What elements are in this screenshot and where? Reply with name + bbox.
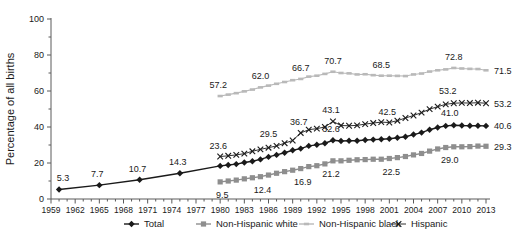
data-point-marker [475, 143, 480, 148]
data-point-marker [250, 88, 255, 91]
data-point-marker [338, 138, 344, 144]
data-point-label: 21.2 [322, 169, 340, 179]
x-axis-tick-label: 1977 [187, 205, 206, 215]
data-point-marker [403, 154, 408, 159]
data-point-label: 22.5 [383, 167, 401, 177]
data-point-marker [459, 144, 464, 149]
x-axis-tick-label: 2001 [380, 205, 399, 215]
x-axis-tick-label: 1986 [259, 205, 278, 215]
data-point-marker [434, 124, 440, 130]
chart-figure: 020406080100 195919621965196819711974197… [0, 0, 514, 237]
data-point-marker [273, 152, 279, 158]
x-axis-tick-label: 2007 [428, 205, 447, 215]
data-point-marker [395, 75, 400, 78]
data-point-marker [298, 166, 303, 171]
data-point-label: 62.0 [252, 71, 270, 81]
legend-item-total[interactable]: Total [124, 218, 164, 229]
x-axis-tick-label: 1992 [307, 205, 326, 215]
x-axis: 1959196219651968197119741977198019831986… [42, 199, 496, 215]
data-point-marker [314, 163, 319, 168]
data-point-marker [459, 122, 465, 128]
y-axis-tick-label: 100 [29, 14, 44, 24]
data-point-label: 32.6 [322, 124, 340, 134]
data-point-marker [427, 70, 432, 73]
x-axis-tick-label: 1995 [332, 205, 351, 215]
x-axis-tick-label: 2013 [477, 205, 496, 215]
data-point-marker [370, 136, 376, 142]
data-point-marker [418, 129, 424, 135]
data-point-marker [483, 69, 488, 72]
data-point-marker [411, 73, 416, 76]
data-point-marker [451, 122, 457, 128]
data-point-label: 29.0 [441, 155, 459, 165]
data-point-marker [443, 145, 448, 150]
data-point-marker [362, 137, 368, 143]
data-point-marker [363, 73, 368, 76]
x-axis-tick-label: 1968 [114, 205, 133, 215]
data-point-marker [371, 157, 376, 162]
data-point-marker [258, 86, 263, 89]
x-axis-tick-label: 1989 [283, 205, 302, 215]
y-axis-tick-label: 80 [34, 50, 44, 60]
data-point-marker [402, 134, 408, 140]
data-point-label: 5.3 [57, 173, 70, 183]
data-point-marker [387, 156, 392, 161]
data-point-marker [233, 161, 239, 167]
x-axis-tick-label: 1965 [90, 205, 109, 215]
data-point-label: 14.3 [169, 157, 187, 167]
data-point-label: 66.7 [292, 63, 310, 73]
data-point-marker [483, 144, 488, 149]
data-point-marker [289, 147, 295, 153]
data-point-marker [483, 123, 489, 129]
data-point-marker [274, 83, 279, 86]
data-point-marker [242, 90, 247, 93]
data-point-marker [177, 170, 183, 176]
legend-item-non-hispanic-white[interactable]: Non-Hispanic white [196, 218, 298, 229]
data-point-marker [411, 113, 417, 119]
data-point-label: 41.0 [441, 108, 459, 118]
data-point-marker [201, 221, 206, 226]
data-point-marker [306, 143, 312, 149]
data-point-label: 29.5 [260, 129, 278, 139]
data-point-label: 7.7 [91, 169, 104, 179]
legend-label: Non-Hispanic black [319, 218, 401, 229]
x-axis-tick-label: 1980 [211, 205, 230, 215]
legend-label: Non-Hispanic white [216, 218, 298, 229]
data-point-marker [467, 123, 473, 129]
data-point-marker [451, 144, 456, 149]
x-axis-tick-label: 2004 [404, 205, 423, 215]
data-point-marker [226, 93, 231, 96]
data-point-marker [128, 221, 134, 227]
x-axis-tick-label: 1959 [42, 205, 61, 215]
data-point-marker [306, 164, 311, 169]
data-point-marker [322, 140, 328, 146]
data-point-marker [378, 136, 384, 142]
series-end-label: 40.6 [494, 121, 512, 131]
data-point-marker [234, 92, 239, 95]
series-end-label: 29.3 [494, 142, 512, 152]
x-axis-tick-label: 1974 [162, 205, 181, 215]
x-axis-tick-label: 1998 [356, 205, 375, 215]
data-point-marker [451, 67, 456, 70]
data-point-marker [226, 178, 231, 183]
data-point-marker [136, 177, 142, 183]
data-point-marker [467, 68, 472, 71]
data-point-marker [355, 73, 360, 76]
data-point-marker [225, 162, 231, 168]
end-labels-group: 71.553.240.629.3 [494, 66, 512, 152]
data-point-marker [298, 130, 304, 136]
data-point-marker [435, 69, 440, 72]
data-point-label: 57.2 [209, 80, 227, 90]
data-point-marker [242, 176, 247, 181]
data-point-marker [322, 161, 327, 166]
data-point-label: 12.4 [254, 185, 272, 195]
chart-legend: TotalNon-Hispanic whiteNon-Hispanic blac… [124, 218, 448, 229]
legend-item-non-hispanic-black[interactable]: Non-Hispanic black [299, 218, 401, 229]
data-point-label: 42.5 [379, 107, 397, 117]
data-point-marker [330, 70, 335, 73]
y-axis-title: Percentage of all births [4, 52, 16, 165]
data-point-marker [419, 151, 424, 156]
data-point-marker [314, 142, 320, 148]
data-point-marker [363, 157, 368, 162]
data-point-marker [346, 137, 352, 143]
